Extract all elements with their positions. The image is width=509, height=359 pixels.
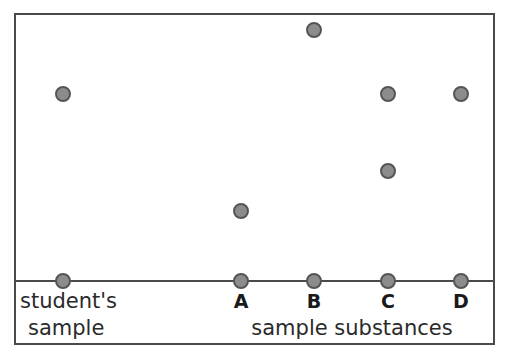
lane-label-b: B	[307, 292, 321, 311]
student-sample-label: student's sample	[20, 288, 117, 342]
spot-lane-a-component-1	[233, 203, 249, 219]
spot-student-sample-origin	[55, 273, 71, 289]
spot-lane-b-component-1	[306, 22, 322, 38]
lane-label-c: C	[381, 292, 395, 311]
student-sample-label-line-1: student's	[20, 288, 117, 315]
student-sample-label-line-2: sample	[20, 315, 117, 342]
baseline-origin-line	[14, 280, 495, 282]
lane-label-a: A	[234, 292, 249, 311]
spot-lane-d-component-1	[453, 86, 469, 102]
spot-lane-b-origin	[306, 273, 322, 289]
spot-lane-c-component-2	[380, 86, 396, 102]
spot-lane-a-origin	[233, 273, 249, 289]
lane-label-d: D	[453, 292, 469, 311]
spot-student-sample-component-1	[55, 86, 71, 102]
spot-lane-c-component-1	[380, 163, 396, 179]
spot-lane-c-origin	[380, 273, 396, 289]
chromatography-figure: student's sample A B C D sample substanc…	[0, 0, 509, 359]
spot-lane-d-origin	[453, 273, 469, 289]
sample-substances-caption: sample substances	[251, 318, 452, 339]
